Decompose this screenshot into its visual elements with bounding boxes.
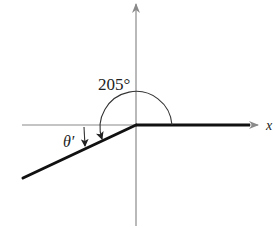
reference-angle-diagram: 205° θ′ x <box>0 0 275 228</box>
terminal-side-ray <box>23 125 136 178</box>
reference-angle-label: θ′ <box>63 133 75 150</box>
reference-angle-arrow <box>84 127 85 146</box>
x-axis-label: x <box>265 118 273 133</box>
angle-label: 205° <box>98 75 130 94</box>
